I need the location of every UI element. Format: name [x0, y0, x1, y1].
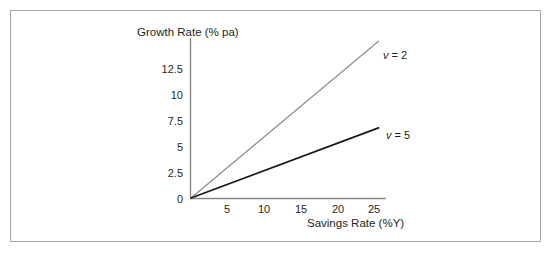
y-tick-label-5: 5 [149, 142, 183, 153]
y-tick-label-0: 0 [149, 194, 183, 205]
series-line-v2 [191, 41, 379, 198]
y-tick-label-2-5: 2.5 [149, 168, 183, 179]
x-tick-label-25: 25 [361, 204, 387, 215]
x-tick-label-5: 5 [214, 204, 240, 215]
series-label-v2-value: 2 [401, 49, 407, 61]
x-axis-title: Savings Rate (%Y) [307, 218, 404, 230]
series-line-v5 [191, 128, 379, 198]
x-tick-label-10: 10 [251, 204, 277, 215]
series-label-v5: v = 5 [386, 130, 410, 141]
y-tick-label-7-5: 7.5 [149, 116, 183, 127]
y-tick-label-10: 10 [149, 90, 183, 101]
x-tick-label-15: 15 [288, 204, 314, 215]
series-label-v2: v = 2 [383, 50, 407, 61]
chart-figure: Growth Rate (% pa) Savings Rate (%Y) 12.… [0, 0, 552, 254]
series-label-v5-value: 5 [404, 129, 410, 141]
chart-plot-area [0, 0, 552, 254]
y-axis-title: Growth Rate (% pa) [137, 27, 239, 39]
y-tick-label-12-5: 12.5 [149, 64, 183, 75]
x-tick-label-20: 20 [325, 204, 351, 215]
